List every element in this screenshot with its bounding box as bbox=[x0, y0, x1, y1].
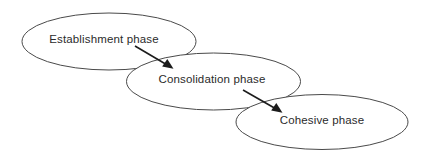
phase-label-establishment: Establishment phase bbox=[49, 33, 159, 45]
phase-node-cohesive[interactable]: Cohesive phase bbox=[236, 95, 408, 150]
phase-diagram: Establishment phase Consolidation phase … bbox=[0, 0, 422, 157]
phase-label-cohesive: Cohesive phase bbox=[280, 114, 365, 126]
phase-diagram-container: Establishment phase Consolidation phase … bbox=[0, 0, 422, 157]
phase-label-consolidation: Consolidation phase bbox=[158, 73, 265, 85]
